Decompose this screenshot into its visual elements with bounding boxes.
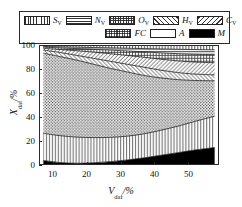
- y-tick-label: 20: [13, 137, 35, 146]
- x-axis-title-sub: daf: [114, 193, 122, 200]
- legend-swatch-cross-grid-icon: [109, 16, 135, 25]
- legend-item-a: A: [150, 29, 185, 38]
- legend-label: HV: [182, 16, 193, 26]
- y-tick-mark: [39, 45, 42, 46]
- legend-label-sub: V: [189, 20, 193, 26]
- legend-label-main: FC: [134, 28, 146, 38]
- x-tick-mark: [188, 162, 189, 165]
- legend-label: NV: [95, 16, 105, 26]
- legend-swatch-stipple-dots-icon: [105, 29, 131, 38]
- x-tick-label: 10: [41, 170, 65, 179]
- y-axis-title-unit: /%: [8, 90, 19, 101]
- stacked-area-svg: [40, 46, 218, 164]
- legend-swatch-horizontal-lines-icon: [66, 16, 92, 25]
- x-tick-mark: [154, 162, 155, 165]
- x-axis-ticks: 1020304050: [0, 170, 242, 182]
- legend-label: M: [218, 29, 226, 38]
- x-axis-title-unit: /%: [123, 185, 134, 196]
- legend-item-ov: OV: [109, 16, 149, 26]
- area-bands: [43, 46, 214, 164]
- legend-label-sub: V: [145, 20, 149, 26]
- legend-label-main: N: [95, 15, 101, 25]
- legend-swatch-diagonal-hatch-back-icon: [197, 16, 223, 25]
- legend-label-sub: V: [232, 20, 236, 26]
- y-tick-mark: [39, 69, 42, 70]
- y-axis-title: Xdaf/%: [8, 73, 21, 133]
- y-axis-title-sub: daf: [16, 101, 23, 109]
- legend-label: SV: [53, 16, 62, 26]
- legend-label-main: O: [138, 15, 145, 25]
- legend-label-sub: V: [58, 20, 62, 26]
- x-tick-mark: [87, 162, 88, 165]
- legend-label-sub: V: [101, 20, 105, 26]
- x-tick-label: 40: [142, 170, 166, 179]
- legend-row-1: SVNVOVHVCV: [24, 14, 226, 27]
- x-tick-label: 50: [176, 170, 200, 179]
- legend-label: FC: [134, 29, 146, 38]
- legend-swatch-vertical-lines-icon: [24, 16, 50, 25]
- legend-row-2: FCAM: [24, 27, 226, 40]
- legend-item-sv: SV: [24, 16, 62, 26]
- legend-item-nv: NV: [66, 16, 105, 26]
- y-tick-mark: [39, 93, 42, 94]
- x-tick-label: 20: [75, 170, 99, 179]
- y-tick-mark: [39, 165, 42, 166]
- legend-swatch-solid-black-icon: [189, 29, 215, 38]
- x-axis-title: Vdaf/%: [0, 185, 242, 198]
- y-tick-mark: [39, 141, 42, 142]
- legend-item-cv: CV: [197, 16, 236, 26]
- legend-label-main: H: [182, 15, 189, 25]
- legend-swatch-diagonal-hatch-fwd-icon: [153, 16, 179, 25]
- legend-label-main: M: [218, 28, 226, 38]
- legend-label: A: [179, 29, 185, 38]
- legend-label: CV: [226, 16, 236, 26]
- legend-label-main: A: [179, 28, 185, 38]
- chart-legend: SVNVOVHVCV FCAM: [19, 11, 230, 44]
- y-tick-label: 100: [13, 41, 35, 50]
- plot-area: [39, 45, 219, 165]
- x-tick-label: 30: [109, 170, 133, 179]
- legend-item-fc: FC: [105, 29, 146, 38]
- y-tick-mark: [39, 117, 42, 118]
- legend-item-m: M: [189, 29, 226, 38]
- x-tick-mark: [121, 162, 122, 165]
- chart-figure: SVNVOVHVCV FCAM: [0, 0, 242, 207]
- legend-label-main: S: [53, 15, 58, 25]
- legend-swatch-blank-white-icon: [150, 29, 176, 38]
- x-tick-mark: [53, 162, 54, 165]
- y-tick-label: 0: [13, 161, 35, 170]
- legend-item-hv: HV: [153, 16, 193, 26]
- legend-label: OV: [138, 16, 149, 26]
- legend-label-main: C: [226, 15, 232, 25]
- y-axis-title-main: X: [8, 109, 19, 115]
